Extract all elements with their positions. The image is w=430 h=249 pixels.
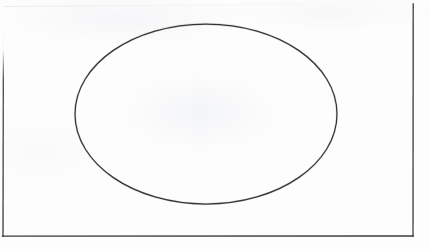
figure-drawing (0, 0, 430, 249)
figure-canvas (0, 0, 430, 249)
ellipse-outline-halo (75, 24, 337, 204)
frame-top-edge (4, 4, 412, 7)
